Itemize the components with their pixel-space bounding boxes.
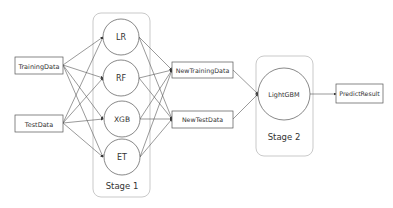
input-edges <box>63 37 103 157</box>
stage2-label: Stage 2 <box>268 132 301 142</box>
model-lightgbm: LightGBM <box>258 68 310 120</box>
input-training-data: TrainingData <box>15 57 63 74</box>
model-xgb: XGB <box>104 101 140 137</box>
svg-text:RF: RF <box>116 74 127 83</box>
model-rf: RF <box>103 60 139 96</box>
svg-text:LR: LR <box>116 33 126 42</box>
svg-text:TrainingData: TrainingData <box>17 63 59 71</box>
predict-result: PredictResult <box>336 84 383 103</box>
input-test-data: TestData <box>15 115 63 132</box>
svg-text:LightGBM: LightGBM <box>268 91 299 99</box>
svg-text:NewTrainingData: NewTrainingData <box>176 67 230 75</box>
svg-text:TestData: TestData <box>24 121 53 129</box>
model-et: ET <box>104 139 140 175</box>
new-training-data: NewTrainingData <box>172 62 233 78</box>
svg-text:PredictResult: PredictResult <box>339 90 380 97</box>
svg-text:NewTestData: NewTestData <box>182 116 223 123</box>
stage1-label: Stage 1 <box>106 181 139 191</box>
svg-text:ET: ET <box>117 153 127 162</box>
stacking-diagram: TrainingData TestData LR RF XGB ET Stage… <box>0 0 393 208</box>
model-lr: LR <box>103 19 139 55</box>
new-test-data: NewTestData <box>172 111 233 128</box>
stage1-edges <box>139 37 172 157</box>
svg-text:XGB: XGB <box>114 115 130 124</box>
